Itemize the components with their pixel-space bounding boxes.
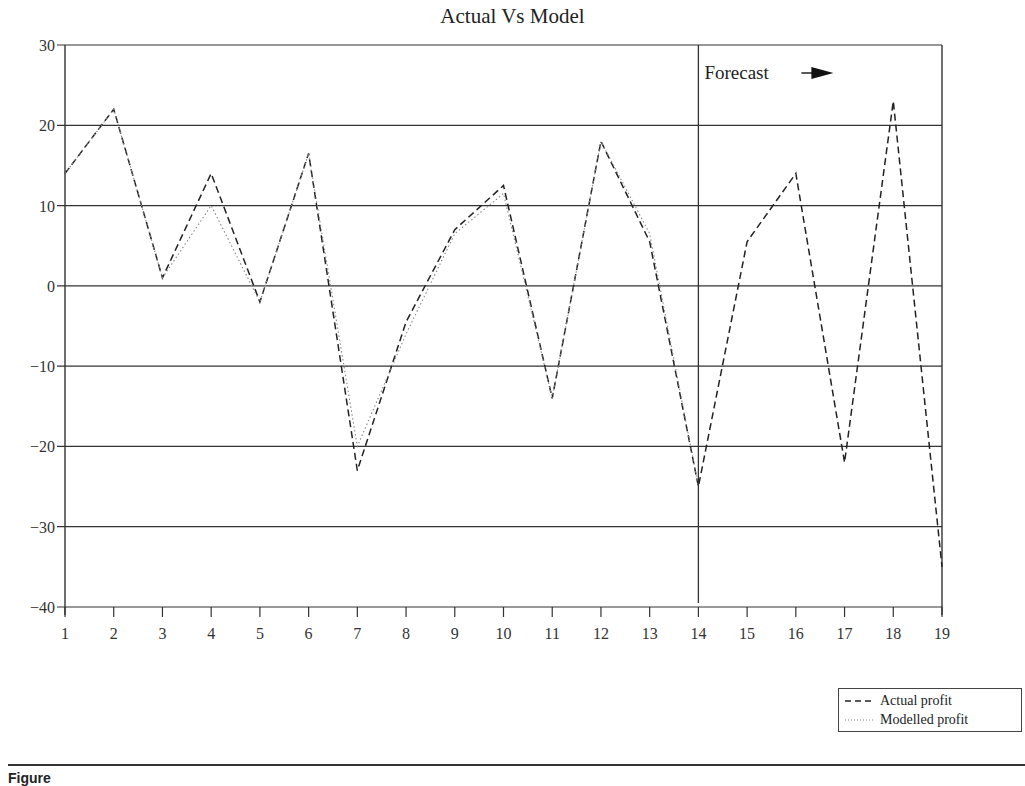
axis-ticks: 3020100−10−20−30−40123456789101112131415… — [30, 37, 950, 642]
y-tick-label: −30 — [30, 519, 55, 536]
x-tick-label: 4 — [207, 625, 215, 642]
x-tick-label: 19 — [934, 625, 950, 642]
x-tick-label: 15 — [739, 625, 755, 642]
legend-item-modelled: Modelled profit — [845, 711, 968, 729]
y-tick-label: 30 — [39, 37, 55, 54]
y-tick-label: 0 — [47, 278, 55, 295]
gridlines — [57, 45, 942, 607]
divider — [8, 764, 1025, 766]
x-tick-label: 14 — [690, 625, 706, 642]
x-tick-label: 12 — [593, 625, 609, 642]
dashed-line-icon — [845, 698, 875, 704]
x-tick-label: 2 — [110, 625, 118, 642]
figure-caption: Figure — [8, 770, 51, 786]
x-tick-label: 17 — [837, 625, 853, 642]
x-tick-label: 8 — [402, 625, 410, 642]
series-actual-profit — [65, 101, 942, 567]
x-tick-label: 10 — [496, 625, 512, 642]
dotted-line-icon — [845, 717, 875, 723]
y-tick-label: 20 — [39, 117, 55, 134]
y-tick-label: −10 — [30, 358, 55, 375]
legend-label: Actual profit — [880, 693, 952, 709]
arrow-right-icon — [811, 67, 833, 79]
x-tick-label: 7 — [353, 625, 361, 642]
y-tick-label: 10 — [39, 198, 55, 215]
legend-item-actual: Actual profit — [845, 692, 952, 710]
legend-label: Modelled profit — [880, 712, 968, 728]
forecast-label: Forecast — [704, 62, 769, 83]
legend: Actual profit Modelled profit — [838, 688, 1022, 732]
forecast-annotation: Forecast — [698, 45, 833, 603]
x-tick-label: 18 — [885, 625, 901, 642]
x-tick-label: 3 — [158, 625, 166, 642]
x-tick-label: 13 — [642, 625, 658, 642]
x-tick-label: 5 — [256, 625, 264, 642]
x-tick-label: 6 — [305, 625, 313, 642]
data-series — [65, 101, 942, 567]
x-tick-label: 11 — [545, 625, 560, 642]
y-tick-label: −40 — [30, 599, 55, 616]
x-tick-label: 9 — [451, 625, 459, 642]
series-modelled-profit — [65, 109, 698, 486]
x-tick-label: 1 — [61, 625, 69, 642]
axes — [65, 45, 942, 615]
y-tick-label: −20 — [30, 438, 55, 455]
x-tick-label: 16 — [788, 625, 804, 642]
